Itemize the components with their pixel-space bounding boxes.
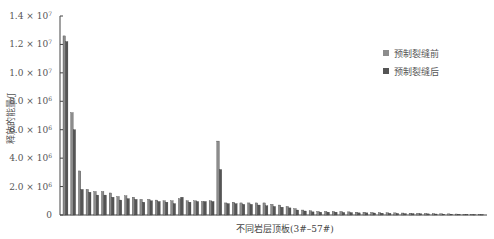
bar-before-44# (378, 213, 380, 215)
bar-before-24# (225, 203, 227, 215)
bar-before-35# (309, 211, 311, 215)
bar-after-35# (312, 212, 314, 215)
bar-after-43# (373, 213, 375, 215)
bar-after-44# (381, 213, 383, 215)
bar-before-50# (424, 213, 426, 215)
bar-before-25# (232, 202, 234, 215)
bar-before-26# (240, 203, 242, 215)
y-tick-label: 1.4 × 107 (0, 11, 52, 21)
bar-before-42# (363, 212, 365, 215)
bar-after-33# (296, 210, 298, 215)
bar-after-29# (265, 206, 267, 215)
bar-before-15# (155, 200, 157, 215)
y-tick-label: 0 (0, 210, 52, 220)
bar-before-55# (463, 214, 465, 215)
bar-after-25# (235, 204, 237, 215)
bar-before-8# (101, 192, 103, 215)
bar-after-13# (142, 202, 144, 215)
bar-before-33# (294, 209, 296, 215)
bar-after-53# (450, 214, 452, 215)
bar-before-32# (286, 206, 288, 215)
bar-after-26# (242, 204, 244, 215)
bar-before-34# (301, 210, 303, 215)
y-tick-label: 1.2 × 107 (0, 39, 52, 49)
bar-after-22# (212, 202, 214, 216)
bar-after-19# (189, 202, 191, 215)
bar-before-23# (217, 141, 219, 215)
bar-after-52# (442, 214, 444, 215)
legend-swatch-after (383, 68, 389, 74)
bar-after-30# (273, 206, 275, 215)
bar-before-28# (255, 203, 257, 215)
bar-before-36# (317, 211, 319, 215)
bar-after-18# (181, 197, 183, 215)
bar-after-51# (435, 214, 437, 215)
bar-after-27# (250, 204, 252, 215)
bar-after-49# (419, 214, 421, 215)
legend-label-after: 预制裂缝后 (394, 65, 439, 78)
bar-before-18# (178, 199, 180, 215)
bar-after-24# (227, 204, 229, 215)
bar-before-19# (186, 201, 188, 215)
legend-item-before: 预制裂缝前 (383, 46, 439, 60)
bar-after-20# (196, 202, 198, 216)
bar-after-47# (404, 214, 406, 215)
bar-after-17# (173, 204, 175, 215)
bar-before-48# (409, 213, 411, 215)
bar-after-6# (89, 192, 91, 215)
bar-after-57# (481, 215, 483, 216)
bar-before-39# (340, 211, 342, 215)
bar-after-14# (150, 201, 152, 215)
legend-swatch-before (383, 50, 389, 56)
bar-before-3# (63, 36, 65, 215)
bar-after-4# (73, 130, 75, 215)
bar-after-28# (258, 205, 260, 215)
bar-before-10# (117, 197, 119, 215)
bar-after-48# (412, 214, 414, 215)
bar-before-7# (94, 192, 96, 215)
bar-after-5# (81, 189, 83, 215)
bar-before-20# (194, 201, 196, 215)
bar-after-32# (289, 208, 291, 215)
legend: 预制裂缝前 预制裂缝后 (383, 46, 439, 82)
bar-after-12# (135, 199, 137, 215)
bar-before-47# (401, 213, 403, 215)
bar-chart: 02.0 × 1064.0 × 1066.0 × 1068.0 × 1061.0… (0, 0, 494, 239)
legend-item-after: 预制裂缝后 (383, 64, 439, 78)
bar-before-17# (171, 201, 173, 215)
legend-label-before: 预制裂缝前 (394, 47, 439, 60)
bar-after-54# (458, 214, 460, 215)
y-tick-label: 1.0 × 107 (0, 68, 52, 78)
bar-before-4# (71, 113, 73, 215)
bar-before-43# (371, 212, 373, 215)
bar-before-51# (432, 214, 434, 215)
y-axis-title: 释放的能量/J (4, 79, 17, 159)
bar-before-56# (471, 214, 473, 215)
bar-before-49# (417, 213, 419, 215)
bar-after-10# (119, 200, 121, 215)
bar-before-31# (278, 205, 280, 215)
bar-before-41# (355, 212, 357, 215)
bar-after-9# (112, 197, 114, 215)
bar-after-39# (342, 212, 344, 215)
bar-after-21# (204, 202, 206, 216)
bar-before-5# (78, 171, 80, 215)
bar-after-8# (104, 195, 106, 215)
bar-after-56# (473, 215, 475, 216)
bar-before-12# (132, 197, 134, 215)
bar-before-30# (271, 204, 273, 215)
bar-before-57# (478, 214, 480, 215)
bar-before-38# (332, 211, 334, 215)
bar-after-38# (335, 212, 337, 215)
bar-before-11# (125, 196, 127, 215)
bar-before-53# (448, 214, 450, 215)
bar-before-52# (440, 214, 442, 215)
bar-after-16# (165, 202, 167, 215)
bar-before-29# (263, 203, 265, 215)
bar-after-15# (158, 202, 160, 216)
bar-after-45# (388, 213, 390, 215)
bar-before-22# (209, 201, 211, 215)
bar-before-45# (386, 213, 388, 215)
bar-after-40# (350, 213, 352, 215)
bar-after-23# (219, 170, 221, 215)
